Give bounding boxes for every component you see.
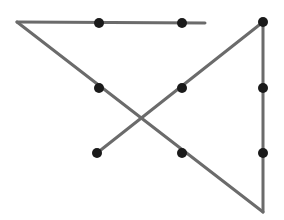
line-figure-diagram bbox=[0, 0, 284, 220]
figure-background bbox=[0, 0, 284, 220]
edge-top-horizontal bbox=[17, 22, 205, 23]
node-top-mid-right bbox=[177, 18, 187, 28]
node-top-right bbox=[258, 17, 268, 27]
node-lower-middle bbox=[177, 148, 187, 158]
node-top-mid-left bbox=[94, 18, 104, 28]
node-left-middle bbox=[94, 83, 104, 93]
node-lower-left-end bbox=[92, 148, 102, 158]
node-right-upper bbox=[258, 83, 268, 93]
node-right-lower bbox=[258, 148, 268, 158]
node-right-middle bbox=[177, 83, 187, 93]
